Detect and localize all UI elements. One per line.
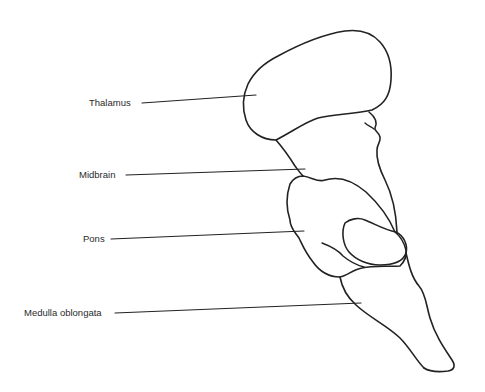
medulla-leader-line bbox=[115, 303, 361, 313]
leader-lines bbox=[0, 0, 485, 392]
label-pons: Pons bbox=[83, 234, 105, 244]
thalamus-leader-line bbox=[142, 95, 256, 103]
brainstem-diagram: Thalamus Midbrain Pons Medulla oblongata bbox=[0, 0, 485, 392]
midbrain-leader-line bbox=[126, 169, 305, 175]
label-medulla-oblongata: Medulla oblongata bbox=[24, 308, 102, 318]
pons-leader-line bbox=[111, 231, 304, 239]
label-midbrain: Midbrain bbox=[79, 170, 115, 180]
label-thalamus: Thalamus bbox=[89, 98, 131, 108]
